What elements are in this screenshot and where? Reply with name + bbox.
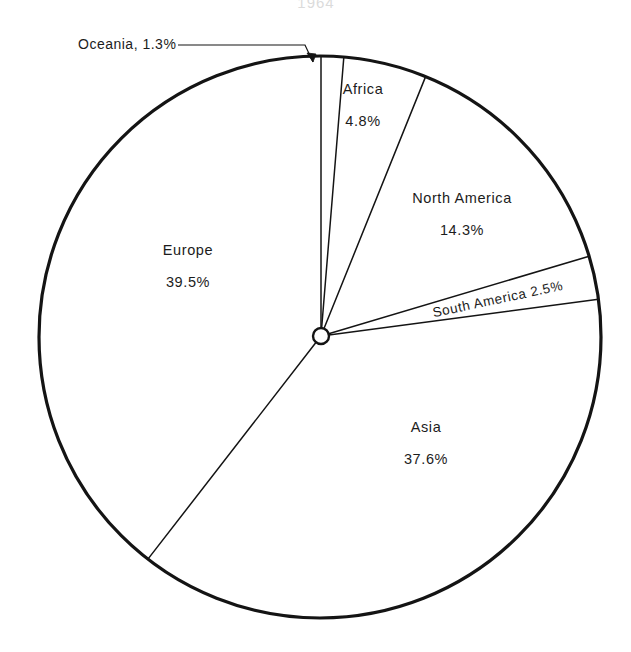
pie-center-hub [313, 328, 329, 344]
chart-title: 1964 [297, 0, 334, 11]
slice-label-name-asia: Asia [411, 419, 442, 435]
slice-label-text-oceania: Oceania, 1.3% [78, 36, 176, 52]
slice-label-name-north-america: North America [412, 190, 512, 206]
pie-chart-figure: 1964 Oceania, 1.3%Africa4.8%North Americ… [0, 0, 631, 652]
slice-label-value-africa: 4.8% [345, 113, 380, 129]
slice-label-oceania: Oceania, 1.3% [78, 36, 176, 52]
slice-label-value-europe: 39.5% [166, 274, 210, 290]
slice-label-value-north-america: 14.3% [440, 222, 484, 238]
slice-label-name-africa: Africa [343, 81, 384, 97]
slice-label-name-europe: Europe [163, 242, 213, 258]
pie-chart-canvas: 1964 Oceania, 1.3%Africa4.8%North Americ… [0, 0, 631, 652]
slice-label-value-asia: 37.6% [404, 451, 448, 467]
